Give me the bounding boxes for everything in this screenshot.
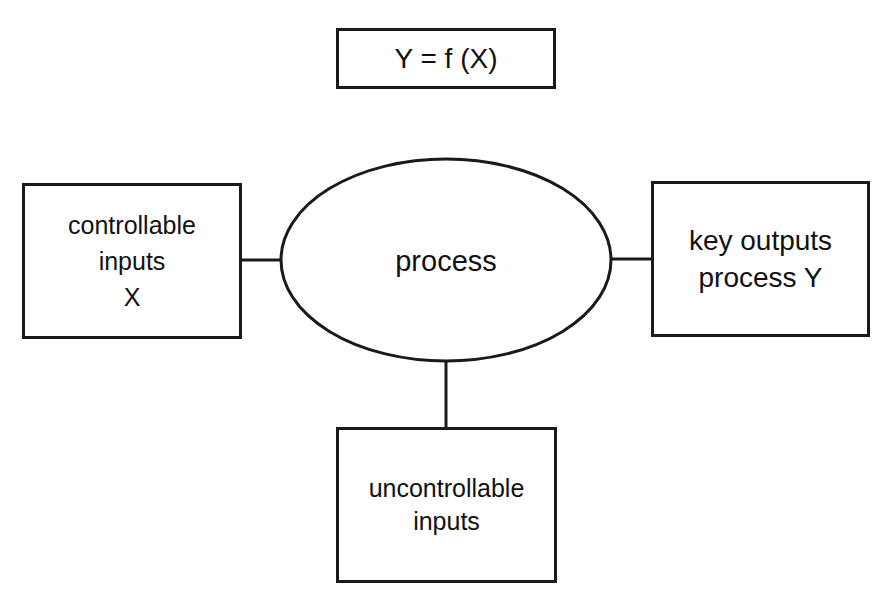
- formula-box: Y = f (X): [336, 28, 556, 89]
- uncontrollable-inputs-line-2: inputs: [413, 505, 480, 538]
- controllable-inputs-box: controllable inputs X: [22, 183, 242, 339]
- key-outputs-box: key outputs process Y: [651, 181, 870, 337]
- key-outputs-line-2: process Y: [699, 259, 823, 296]
- uncontrollable-inputs-box: uncontrollable inputs: [336, 427, 557, 583]
- controllable-inputs-line-3: X: [124, 279, 141, 315]
- uncontrollable-inputs-line-1: uncontrollable: [369, 472, 525, 505]
- key-outputs-line-1: key outputs: [689, 222, 832, 259]
- formula-text: Y = f (X): [395, 42, 498, 76]
- process-label: process: [280, 237, 612, 285]
- controllable-inputs-line-2: inputs: [99, 243, 166, 279]
- controllable-inputs-line-1: controllable: [68, 207, 196, 243]
